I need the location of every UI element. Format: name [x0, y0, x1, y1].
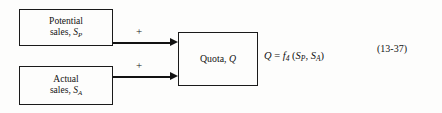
potential-sales-line2: sales, SP	[49, 27, 83, 39]
actual-sales-line2-text: sales,	[50, 85, 73, 95]
actual-sales-line2: sales, SA	[50, 85, 82, 97]
arrow-potential-to-quota-sign: +	[136, 26, 142, 37]
arrow-actual-to-quota-head-icon	[170, 72, 178, 80]
arrow-potential-to-quota-line	[113, 42, 171, 44]
actual-sales-line1: Actual	[50, 74, 82, 85]
arrow-actual-to-quota-sign: +	[136, 60, 142, 71]
actual-sales-subscript: A	[78, 89, 82, 96]
block-actual-sales: Actual sales, SA	[19, 66, 113, 105]
potential-sales-line2-text: sales,	[50, 27, 73, 37]
equation-lhs: Q	[264, 50, 272, 61]
block-potential-sales: Potential sales, SP	[19, 9, 113, 46]
quota-symbol: Q	[229, 53, 236, 64]
arrow-potential-to-quota-head-icon	[170, 38, 178, 46]
equation-close-paren: )	[321, 50, 325, 61]
potential-sales-subscript: P	[78, 31, 82, 38]
equation-expression: Q = f4 (SP, SA)	[264, 50, 324, 63]
potential-sales-line1: Potential	[49, 16, 83, 27]
arrow-actual-to-quota-line	[113, 76, 171, 78]
block-potential-sales-label: Potential sales, SP	[49, 16, 83, 39]
equation-equals: =	[272, 50, 283, 61]
block-actual-sales-label: Actual sales, SA	[50, 74, 82, 97]
block-quota: Quota, Q	[178, 32, 258, 86]
quota-label: Quota, Q	[200, 53, 236, 65]
equation-number: (13-37)	[377, 43, 407, 54]
quota-label-text: Quota,	[200, 53, 229, 64]
block-diagram-figure: Potential sales, SP Actual sales, SA Quo…	[0, 0, 442, 113]
